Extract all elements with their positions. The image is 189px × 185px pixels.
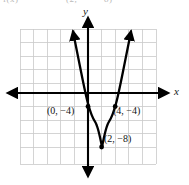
point-2-neg8	[99, 145, 104, 150]
x-axis-label: x	[174, 85, 179, 97]
coordinate-plane-graph	[0, 0, 189, 185]
point-label-0-neg4: (0, −4)	[47, 105, 74, 116]
point-label-4-neg4: (4, −4)	[113, 105, 140, 116]
point-label-2-neg8: (2, −8)	[104, 133, 131, 144]
y-axis-label: y	[83, 5, 88, 17]
figure-container: f(x) = (2, 8)	[0, 0, 189, 185]
point-0-neg4	[86, 104, 91, 109]
